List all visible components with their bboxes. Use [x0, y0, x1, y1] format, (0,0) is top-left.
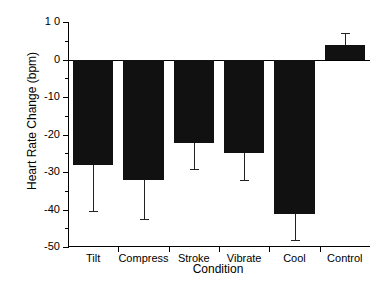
- y-tick-minor: [65, 78, 69, 79]
- x-tick: [169, 247, 170, 252]
- y-tick-minor: [65, 153, 69, 154]
- x-tick-label: Vibrate: [219, 253, 269, 264]
- error-bar-line: [244, 153, 245, 180]
- y-tick-label: 0: [20, 54, 60, 65]
- error-bar-line: [93, 165, 94, 210]
- y-tick-minor: [65, 228, 69, 229]
- error-bar-cap: [341, 33, 350, 34]
- y-tick-minor: [65, 41, 69, 42]
- y-tick-major: [63, 172, 69, 173]
- error-bar-line: [144, 180, 145, 219]
- bar: [123, 60, 163, 180]
- y-tick-major: [63, 135, 69, 136]
- x-tick: [320, 247, 321, 252]
- bar: [325, 45, 365, 59]
- y-tick-major: [63, 247, 69, 248]
- error-bar-cap: [140, 219, 149, 220]
- x-tick-label: Stroke: [169, 253, 219, 264]
- zero-line: [68, 60, 370, 61]
- error-bar-line: [295, 214, 296, 240]
- error-bar-line: [194, 143, 195, 169]
- y-tick-minor: [65, 191, 69, 192]
- x-tick-label: Control: [320, 253, 370, 264]
- error-bar-line: [345, 33, 346, 45]
- bar: [224, 60, 264, 153]
- y-tick-label: -50: [20, 241, 60, 252]
- x-axis-title: Condition: [68, 263, 368, 275]
- y-tick-minor: [65, 116, 69, 117]
- x-tick-label: Tilt: [68, 253, 118, 264]
- y-tick-major: [63, 97, 69, 98]
- bar: [274, 60, 314, 215]
- x-tick-label: Cool: [269, 253, 319, 264]
- y-tick-major: [63, 22, 69, 23]
- y-tick-label: 1 0: [20, 16, 60, 27]
- bar-chart: Heart Rate Change (bpm) Condition 1 00-1…: [0, 0, 379, 291]
- y-tick-major: [63, 210, 69, 211]
- y-tick-label: -10: [20, 91, 60, 102]
- error-bar-cap: [89, 211, 98, 212]
- error-bar-cap: [291, 240, 300, 241]
- bar: [73, 60, 113, 166]
- x-tick-label: Compress: [118, 253, 168, 264]
- y-tick-label: -20: [20, 129, 60, 140]
- y-tick-label: -40: [20, 204, 60, 215]
- error-bar-cap: [190, 169, 199, 170]
- y-tick-label: -30: [20, 166, 60, 177]
- bar: [174, 60, 214, 144]
- x-tick: [269, 247, 270, 252]
- error-bar-cap: [240, 180, 249, 181]
- x-tick: [219, 247, 220, 252]
